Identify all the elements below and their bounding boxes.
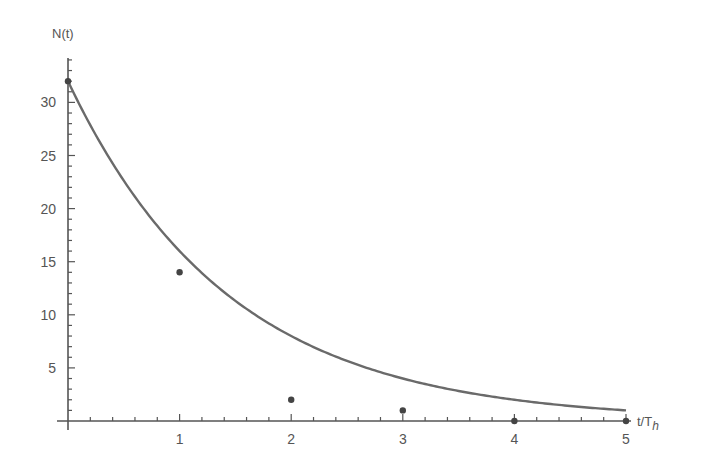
- x-tick-label: 2: [287, 431, 295, 447]
- y-tick-label: 20: [40, 201, 56, 217]
- data-points: [65, 78, 629, 424]
- data-point: [623, 418, 629, 424]
- data-point: [176, 269, 182, 275]
- x-axis-label: t/Th: [637, 414, 659, 433]
- x-tick-label: 4: [511, 431, 519, 447]
- x-tick-label: 3: [399, 431, 407, 447]
- data-point: [400, 407, 406, 413]
- x-tick-label: 1: [176, 431, 184, 447]
- x-tick-label: 5: [622, 431, 630, 447]
- y-tick-label: 30: [40, 94, 56, 110]
- y-tick-label: 5: [48, 360, 56, 376]
- curve-path: [68, 81, 626, 410]
- y-tick-label: 25: [40, 148, 56, 164]
- y-tick-label: 10: [40, 307, 56, 323]
- x-axis-label-subscript: h: [652, 419, 659, 433]
- y-tick-label: 15: [40, 254, 56, 270]
- x-axis-label-main: t/T: [637, 414, 652, 429]
- data-point: [65, 78, 71, 84]
- data-point: [288, 397, 294, 403]
- chart: 1234551015202530 N(t) t/Th: [0, 0, 716, 464]
- y-axis-label: N(t): [52, 26, 74, 41]
- data-point: [511, 418, 517, 424]
- decay-curve: [68, 81, 626, 410]
- axes: 1234551015202530: [40, 58, 631, 447]
